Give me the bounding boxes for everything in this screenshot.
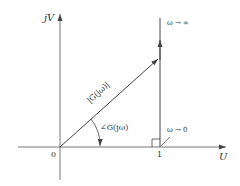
unit-tick-label: 1 — [157, 151, 162, 159]
g-vector — [60, 59, 158, 147]
angle-arc — [91, 119, 100, 146]
right-angle-marker — [152, 139, 160, 147]
jv-axis-label: jV — [44, 13, 54, 23]
omega-zero-leader — [161, 137, 170, 146]
nyquist-diagram — [0, 0, 240, 186]
omega-infinity-label: ω → ∞ — [167, 20, 189, 27]
omega-zero-label: ω → 0 — [167, 127, 187, 134]
angle-label: ∠G(jω) — [100, 124, 128, 132]
u-axis-label: U — [219, 152, 227, 162]
origin-label: 0 — [51, 151, 56, 159]
